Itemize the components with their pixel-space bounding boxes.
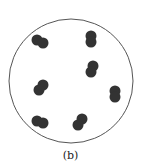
dot-pair — [32, 35, 49, 49]
dot — [86, 37, 97, 48]
dot-pair — [34, 80, 49, 96]
dot-pair — [86, 61, 99, 78]
dot-pair — [86, 31, 97, 48]
dot — [73, 120, 84, 131]
dot — [34, 85, 45, 96]
dot-pair — [32, 116, 49, 129]
figure-canvas — [0, 0, 141, 168]
dot-pairs — [32, 31, 121, 131]
dot — [86, 67, 97, 78]
dot — [38, 118, 49, 129]
figure-label: (b) — [0, 149, 141, 162]
dot — [110, 92, 121, 103]
dot-pair — [73, 114, 88, 131]
dot — [38, 38, 49, 49]
outer-circle — [9, 19, 133, 143]
dot-pair — [110, 86, 121, 103]
